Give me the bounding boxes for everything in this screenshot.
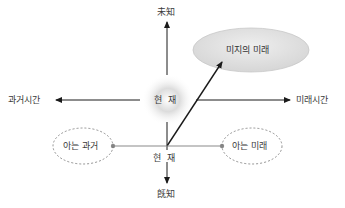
label-past-time: 과거시간: [8, 96, 40, 105]
label-unknown: 未知: [157, 8, 175, 17]
label-known-past: 아는 과거: [63, 142, 98, 151]
label-known: 旣知: [157, 190, 175, 199]
label-present-lower: 현 재: [153, 154, 175, 163]
label-future-time: 미래시간: [296, 96, 328, 105]
label-known-future: 아는 미래: [232, 142, 267, 151]
label-unknown-future: 미지의 미래: [226, 46, 269, 55]
label-present-center: 현 재: [154, 96, 176, 105]
